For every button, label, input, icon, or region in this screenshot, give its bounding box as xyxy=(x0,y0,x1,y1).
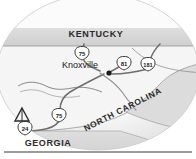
city-label-knoxville: Knoxville xyxy=(62,60,98,70)
shield-label-24: 24 xyxy=(22,126,29,132)
map-canvas: KENTUCKY NORTH CAROLINA GEORGIA Knoxvill… xyxy=(0,0,196,159)
shield-24[interactable]: 24 xyxy=(18,122,32,136)
shield-label-75-north: 75 xyxy=(79,51,86,57)
city-dot-knoxville xyxy=(106,70,111,75)
shield-label-181: 181 xyxy=(143,62,152,68)
state-label-kentucky: KENTUCKY xyxy=(69,29,124,39)
knoxville-region-map: KENTUCKY NORTH CAROLINA GEORGIA Knoxvill… xyxy=(0,0,196,159)
shield-label-81: 81 xyxy=(121,61,128,67)
state-label-georgia: GEORGIA xyxy=(25,138,72,148)
shield-label-75-south: 75 xyxy=(56,113,63,119)
